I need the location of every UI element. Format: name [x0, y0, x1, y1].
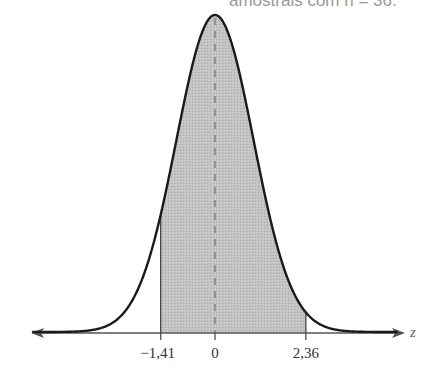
normal-distribution-diagram: −1,41 0 2,36 z [0, 0, 429, 379]
tick-label-neg-1-41: −1,41 [140, 345, 175, 361]
tick-label-2-36: 2,36 [293, 345, 320, 361]
z-axis-label: z [409, 324, 416, 340]
shaded-region [161, 16, 306, 333]
tick-label-zero: 0 [211, 345, 219, 361]
